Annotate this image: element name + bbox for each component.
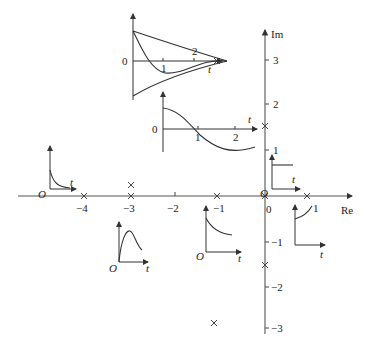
svg-text:O: O	[38, 188, 46, 200]
tick-im-3: 3	[273, 54, 279, 66]
svg-text:t: t	[146, 262, 150, 274]
s-plane-diagram: Re −4 −3 −2 −1 0 1 Im 3 2 1 −1 −2 −3	[0, 0, 370, 349]
svg-text:O: O	[196, 250, 204, 262]
svg-text:2: 2	[192, 45, 198, 57]
svg-text:O: O	[260, 187, 268, 199]
inset-growing-exponential: t	[295, 205, 325, 260]
inset-fast-decay: O t	[38, 146, 76, 200]
svg-text:O: O	[109, 262, 117, 274]
pole-marker-neg1-j3	[211, 320, 217, 326]
tick-re-neg2: −2	[167, 202, 179, 214]
imag-axis: Im 3 2 1 −1 −2 −3	[265, 28, 284, 334]
svg-text:1: 1	[161, 62, 167, 74]
tick-re-neg1: −1	[213, 202, 225, 214]
tick-re-1: 1	[313, 202, 319, 214]
svg-text:t: t	[248, 113, 252, 125]
svg-text:2: 2	[233, 131, 239, 143]
diagram-canvas: Re −4 −3 −2 −1 0 1 Im 3 2 1 −1 −2 −3	[0, 0, 370, 349]
tick-re-neg4: −4	[76, 202, 88, 214]
inset-damped-oscillation: 0 1 2 t	[122, 14, 227, 100]
svg-text:t: t	[292, 173, 296, 185]
imag-axis-label: Im	[271, 28, 284, 40]
inset-sustained-oscillation: 0 1 2 t	[152, 92, 257, 152]
tick-im-2: 2	[273, 98, 279, 110]
tick-re-neg3: −3	[123, 202, 135, 214]
svg-text:t: t	[238, 252, 242, 264]
pole-marker-neg3-double	[128, 182, 134, 188]
svg-text:0: 0	[122, 55, 128, 67]
svg-text:t: t	[70, 176, 74, 188]
inset-step-constant: O t	[260, 155, 300, 199]
tick-re-0: 0	[266, 203, 272, 215]
svg-text:0: 0	[152, 123, 158, 135]
svg-text:1: 1	[195, 131, 201, 143]
inset-slow-decay: O t	[196, 206, 242, 264]
inset-double-pole-response: O t	[109, 222, 150, 274]
svg-text:t: t	[320, 248, 324, 260]
tick-im-neg2: −2	[271, 281, 283, 293]
tick-im-1: 1	[273, 144, 279, 156]
tick-im-neg3: −3	[271, 322, 283, 334]
real-axis: Re −4 −3 −2 −1 0 1	[18, 192, 353, 216]
tick-im-neg1: −1	[271, 236, 283, 248]
real-axis-label: Re	[341, 204, 353, 216]
